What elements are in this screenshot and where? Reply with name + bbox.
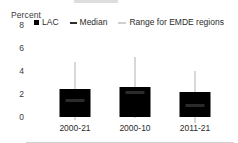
chart-figure: Percent LAC Median Range for EMDE region… [0,0,238,143]
y-tick-4: 4 [8,67,24,76]
y-tick-8: 8 [8,21,24,30]
x-axis-baseline [26,142,234,143]
median-dash-1 [126,91,145,94]
median-dash-2 [186,104,205,107]
bar-group-2[interactable] [164,25,226,117]
median-dash-0 [66,99,85,102]
bar-group-0[interactable] [44,25,106,117]
x-tick-1: 2000-10 [104,124,166,133]
x-tick-2: 2011-21 [164,124,226,133]
y-tick-0: 0 [8,113,24,122]
thin-line-marker-icon [118,22,126,24]
cropped-title-remnant [74,0,118,3]
plot-area [26,25,232,117]
y-tick-2: 2 [8,90,24,99]
bar-lac-0 [60,89,91,117]
bar-group-1[interactable] [104,25,166,117]
x-tick-0: 2000-21 [44,124,106,133]
x-axis-tick-labels: 2000-21 2000-10 2011-21 [26,124,232,138]
short-dash-marker-icon [70,22,77,24]
y-tick-6: 6 [8,44,24,53]
y-axis-tick-labels: 8 6 4 2 0 [0,0,24,143]
